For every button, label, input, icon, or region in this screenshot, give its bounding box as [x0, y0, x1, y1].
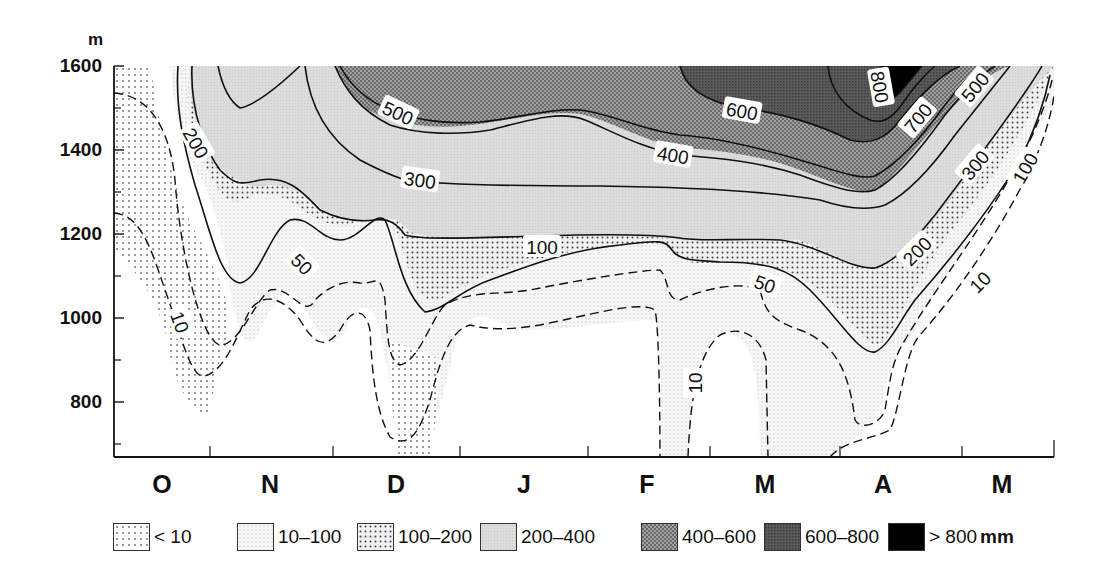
snow-depth-contour-chart: m 1600 1400 1200 1000 800 [0, 0, 1115, 587]
legend-item-lt10: < 10 [113, 521, 192, 553]
x-tick-mar: M [745, 470, 785, 499]
legend-item-400-600: 400–600 [641, 521, 756, 553]
legend-item-100-200: 100–200 [357, 521, 472, 553]
x-tick-oct: O [142, 470, 182, 499]
contour-label-10-mar: 10 [685, 372, 706, 393]
x-tick-nov: N [250, 470, 290, 499]
x-tick-apr: A [863, 470, 903, 499]
legend-label: 400–600 [682, 526, 756, 548]
x-tick-feb: F [627, 470, 667, 499]
x-tick-may: M [982, 470, 1022, 499]
legend-swatch-gt800 [888, 523, 925, 551]
legend-unit: mm [980, 526, 1014, 548]
x-tick-jan: J [504, 470, 544, 499]
legend-label: < 10 [154, 526, 192, 548]
legend-item-200-400: 200–400 [480, 521, 595, 553]
contour-label-100-jan: 100 [526, 237, 558, 258]
legend-swatch-100-200 [357, 523, 394, 551]
legend-swatch-200-400 [480, 523, 517, 551]
x-tick-dec: D [376, 470, 416, 499]
legend-swatch-lt10 [113, 523, 150, 551]
legend-item-gt800: > 800 mm [888, 521, 1014, 553]
legend-item-600-800: 600–800 [764, 521, 879, 553]
legend-label: 10–100 [278, 526, 341, 548]
legend-item-10-100: 10–100 [237, 521, 341, 553]
region-10-100-d-trough [388, 340, 440, 457]
legend-label: 200–400 [521, 526, 595, 548]
legend-swatch-600-800 [764, 523, 801, 551]
legend-swatch-400-600 [641, 523, 678, 551]
legend-swatch-10-100 [237, 523, 274, 551]
legend-label: 100–200 [398, 526, 472, 548]
legend-label: > 800 [929, 526, 977, 548]
legend-label: 600–800 [805, 526, 879, 548]
contour-label-300: 300 [403, 168, 437, 193]
